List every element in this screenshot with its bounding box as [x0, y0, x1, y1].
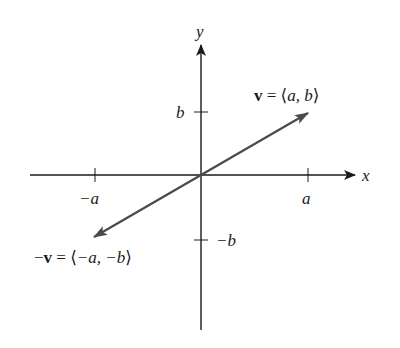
vector-negative-v-symbol: v — [44, 248, 53, 267]
vector-v-equals: = ⟨ — [263, 86, 288, 105]
vector-negative-v-minus: − — [34, 248, 44, 267]
coordinate-plane — [0, 0, 400, 348]
vector-negative-v-close: ⟩ — [125, 248, 132, 267]
vector-v-close: ⟩ — [313, 86, 320, 105]
tick-label-x-positive: a — [302, 190, 311, 207]
tick-label-x-negative: −a — [79, 190, 99, 207]
vector-v-components: a, b — [287, 86, 313, 105]
vector-v-symbol: v — [254, 86, 263, 105]
y-axis-label: y — [196, 23, 204, 40]
vector-negative-v-components: −a, −b — [77, 248, 125, 267]
vector-negative-v-label: −v = ⟨−a, −b⟩ — [34, 249, 132, 266]
vector-v-arrow — [201, 113, 308, 175]
vector-v-label: v = ⟨a, b⟩ — [254, 87, 319, 104]
x-axis-label: x — [362, 167, 370, 184]
tick-label-y-negative: −b — [216, 232, 236, 249]
vector-negative-v-equals: = ⟨ — [52, 248, 77, 267]
vector-negative-v-arrow — [94, 175, 201, 237]
tick-label-y-positive: b — [176, 104, 185, 121]
